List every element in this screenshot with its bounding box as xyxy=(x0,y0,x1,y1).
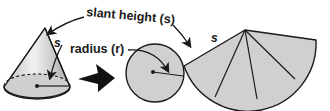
lateral-sector xyxy=(184,30,316,111)
base-circle xyxy=(126,44,184,102)
cone-net-diagram: slant height (s) radius (r) s s xyxy=(0,0,330,111)
slant-height-pointer-right xyxy=(173,25,190,46)
sector-shape xyxy=(184,30,316,111)
base-circle-shape xyxy=(126,44,184,102)
transform-arrow-icon xyxy=(78,64,115,92)
slant-height-label: slant height (s) xyxy=(86,5,176,27)
cone-slant-s-label: s xyxy=(54,36,61,50)
radius-label: radius (r) xyxy=(70,42,124,56)
slant-height-pointer-left xyxy=(48,17,84,34)
sector-slant-s-label: s xyxy=(211,31,218,45)
